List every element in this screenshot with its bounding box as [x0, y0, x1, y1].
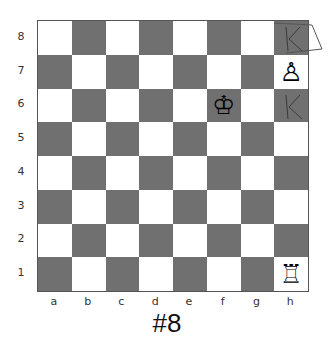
- file-label: h: [273, 295, 307, 308]
- square-f8[interactable]: [207, 21, 241, 55]
- file-label: b: [71, 295, 105, 308]
- rank-label: 6: [14, 97, 28, 110]
- square-b3[interactable]: [72, 190, 106, 224]
- chess-board: ♔♙♖: [37, 20, 309, 292]
- square-g3[interactable]: [241, 190, 275, 224]
- rank-label: 7: [14, 64, 28, 77]
- square-e4[interactable]: [173, 156, 207, 190]
- square-g5[interactable]: [241, 122, 275, 156]
- square-a7[interactable]: [38, 55, 72, 89]
- square-f7[interactable]: [207, 55, 241, 89]
- square-e6[interactable]: [173, 89, 207, 123]
- rank-label: 1: [14, 266, 28, 279]
- square-a1[interactable]: [38, 257, 72, 291]
- square-b7[interactable]: [72, 55, 106, 89]
- white-rook-icon[interactable]: ♖: [274, 257, 308, 291]
- square-c3[interactable]: [106, 190, 140, 224]
- rank-label: 2: [14, 232, 28, 245]
- white-king-icon[interactable]: ♔: [207, 89, 241, 123]
- square-c2[interactable]: [106, 224, 140, 258]
- white-pawn-icon[interactable]: ♙: [274, 55, 308, 89]
- square-c5[interactable]: [106, 122, 140, 156]
- square-d6[interactable]: [139, 89, 173, 123]
- square-c1[interactable]: [106, 257, 140, 291]
- square-b1[interactable]: [72, 257, 106, 291]
- square-d4[interactable]: [139, 156, 173, 190]
- square-d7[interactable]: [139, 55, 173, 89]
- square-g4[interactable]: [241, 156, 275, 190]
- square-e8[interactable]: [173, 21, 207, 55]
- rank-label: 3: [14, 199, 28, 212]
- square-a2[interactable]: [38, 224, 72, 258]
- square-g7[interactable]: [241, 55, 275, 89]
- file-label: d: [138, 295, 172, 308]
- square-h3[interactable]: [274, 190, 308, 224]
- square-a4[interactable]: [38, 156, 72, 190]
- square-c6[interactable]: [106, 89, 140, 123]
- square-h2[interactable]: [274, 224, 308, 258]
- file-label: f: [206, 295, 240, 308]
- square-e1[interactable]: [173, 257, 207, 291]
- square-f4[interactable]: [207, 156, 241, 190]
- square-g2[interactable]: [241, 224, 275, 258]
- square-c7[interactable]: [106, 55, 140, 89]
- handwritten-mark-h8: [274, 21, 334, 55]
- square-e2[interactable]: [173, 224, 207, 258]
- square-h5[interactable]: [274, 122, 308, 156]
- file-label: c: [105, 295, 139, 308]
- square-d1[interactable]: [139, 257, 173, 291]
- square-a8[interactable]: [38, 21, 72, 55]
- square-d8[interactable]: [139, 21, 173, 55]
- rank-label: 8: [14, 30, 28, 43]
- square-e5[interactable]: [173, 122, 207, 156]
- square-f5[interactable]: [207, 122, 241, 156]
- puzzle-number: #8: [0, 308, 334, 339]
- file-label: e: [172, 295, 206, 308]
- square-g1[interactable]: [241, 257, 275, 291]
- square-b2[interactable]: [72, 224, 106, 258]
- square-a6[interactable]: [38, 89, 72, 123]
- rank-label: 4: [14, 165, 28, 178]
- rank-label: 5: [14, 131, 28, 144]
- square-a3[interactable]: [38, 190, 72, 224]
- square-f3[interactable]: [207, 190, 241, 224]
- square-e7[interactable]: [173, 55, 207, 89]
- handwritten-mark-h6: [274, 89, 308, 123]
- square-c8[interactable]: [106, 21, 140, 55]
- square-a5[interactable]: [38, 122, 72, 156]
- square-f1[interactable]: [207, 257, 241, 291]
- square-h4[interactable]: [274, 156, 308, 190]
- file-label: a: [37, 295, 71, 308]
- square-f2[interactable]: [207, 224, 241, 258]
- square-g8[interactable]: [241, 21, 275, 55]
- square-d2[interactable]: [139, 224, 173, 258]
- square-b8[interactable]: [72, 21, 106, 55]
- square-g6[interactable]: [241, 89, 275, 123]
- square-c4[interactable]: [106, 156, 140, 190]
- square-b6[interactable]: [72, 89, 106, 123]
- square-d3[interactable]: [139, 190, 173, 224]
- square-d5[interactable]: [139, 122, 173, 156]
- square-b4[interactable]: [72, 156, 106, 190]
- file-label: g: [240, 295, 274, 308]
- square-e3[interactable]: [173, 190, 207, 224]
- square-b5[interactable]: [72, 122, 106, 156]
